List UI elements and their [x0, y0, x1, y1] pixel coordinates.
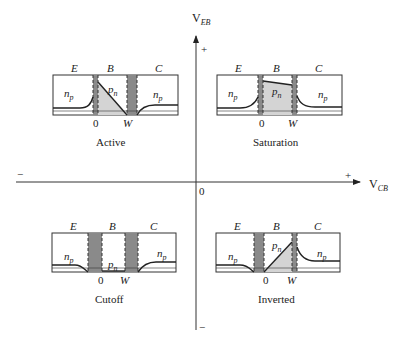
inverted-region-b: B: [273, 221, 280, 232]
saturation-right-carrier: np: [318, 89, 328, 103]
inverted-right-carrier: np: [317, 248, 327, 262]
active-region-e: E: [71, 63, 78, 74]
saturation-base-carrier: pn: [272, 86, 282, 100]
active-caption: Active: [96, 137, 125, 148]
inverted-base-carrier: pn: [272, 240, 282, 254]
cutoff-left-carrier: np: [64, 251, 74, 265]
vertical-plus-sign: +: [201, 44, 207, 55]
saturation-region-c: C: [315, 63, 322, 74]
cutoff-tick-w: W: [120, 275, 129, 286]
saturation-caption: Saturation: [253, 137, 298, 148]
active-right-carrier: np: [153, 89, 163, 103]
active-tick-w: W: [123, 118, 132, 129]
active-region-c: C: [155, 63, 162, 74]
vertical-axis-label: VEB: [192, 12, 210, 27]
saturation-tick-0: 0: [259, 118, 265, 129]
inverted-caption: Inverted: [258, 294, 295, 305]
cutoff-caption: Cutoff: [95, 294, 124, 305]
inverted-region-e: E: [234, 221, 241, 232]
cutoff-region-b: B: [109, 221, 116, 232]
cutoff-right-carrier: np: [157, 248, 167, 262]
origin-label: 0: [199, 186, 205, 197]
active-left-carrier: np: [64, 88, 74, 102]
cutoff-base-carrier: pn: [108, 259, 118, 273]
cutoff-region-c: C: [150, 221, 157, 232]
saturation-region-b: B: [273, 63, 280, 74]
active-region-b: B: [107, 63, 114, 74]
active-base-carrier: pn: [108, 84, 118, 98]
horizontal-minus-sign: −: [17, 169, 23, 180]
inverted-left-carrier: np: [228, 251, 238, 265]
inverted-tick-0: 0: [263, 275, 269, 286]
saturation-region-e: E: [235, 63, 242, 74]
cutoff-region-e: E: [70, 221, 77, 232]
cutoff-tick-0: 0: [98, 275, 104, 286]
inverted-region-c: C: [314, 221, 321, 232]
saturation-tick-w: W: [288, 118, 297, 129]
horizontal-axis-label: VCB: [369, 178, 388, 193]
vertical-minus-sign: −: [199, 322, 205, 333]
saturation-left-carrier: np: [228, 88, 238, 102]
inverted-tick-w: W: [287, 275, 296, 286]
active-tick-0: 0: [93, 118, 99, 129]
horizontal-plus-sign: +: [345, 170, 351, 181]
